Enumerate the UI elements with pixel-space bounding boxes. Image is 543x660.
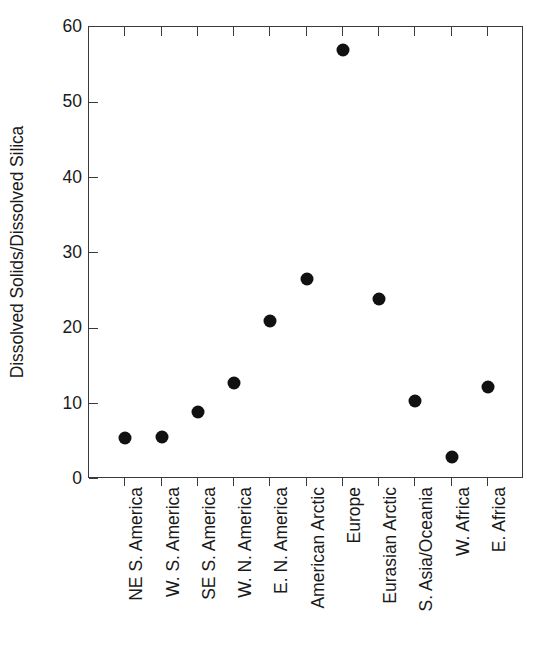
y-axis-tick <box>89 177 98 178</box>
x-axis-tick-label-container: Europe <box>330 487 354 660</box>
y-axis-tick <box>89 403 98 404</box>
x-axis-tick <box>342 477 343 486</box>
x-axis-tick-top <box>342 27 343 36</box>
data-point <box>409 395 422 408</box>
x-axis-tick-top <box>451 27 452 36</box>
x-axis-tick-label: E. N. America <box>269 487 293 594</box>
y-axis-title: Dissolved Solids/Dissolved Silica <box>7 126 28 379</box>
y-axis-tick <box>89 102 98 103</box>
x-axis-tick <box>414 477 415 486</box>
data-point <box>191 405 204 418</box>
x-axis-tick-labels: NE S. AmericaW. S. AmericaSE S. AmericaW… <box>88 487 523 660</box>
y-axis-tick-label: 50 <box>36 91 82 112</box>
data-point <box>481 381 494 394</box>
x-axis-tick-label-container: W. N. America <box>221 487 245 660</box>
y-axis-tick <box>89 252 98 253</box>
data-point <box>336 43 349 56</box>
data-point <box>373 292 386 305</box>
y-axis-tick <box>89 478 98 479</box>
x-axis-tick-top <box>414 27 415 36</box>
x-axis-tick-top <box>233 27 234 36</box>
x-axis-tick <box>306 477 307 486</box>
x-axis-tick-label: Eurasian Arctic <box>378 487 402 604</box>
plot-area <box>88 26 523 478</box>
x-axis-tick-label-container: SE S. America <box>185 487 209 660</box>
x-axis-tick-label: S. Asia/Oceania <box>414 487 438 612</box>
y-axis-tick-label: 10 <box>36 392 82 413</box>
x-axis-tick-top <box>306 27 307 36</box>
x-axis-tick <box>197 477 198 486</box>
x-axis-tick <box>487 477 488 486</box>
x-axis-tick-top <box>269 27 270 36</box>
data-point <box>155 430 168 443</box>
x-axis-tick-top <box>197 27 198 36</box>
x-axis-tick-top <box>124 27 125 36</box>
data-point <box>300 273 313 286</box>
x-axis-tick-top <box>378 27 379 36</box>
y-axis-tick-label: 40 <box>36 166 82 187</box>
x-axis-tick <box>161 477 162 486</box>
y-axis-tick-label: 20 <box>36 317 82 338</box>
x-axis-tick <box>233 477 234 486</box>
data-point <box>445 451 458 464</box>
x-axis-tick-label: NE S. America <box>124 487 148 601</box>
x-axis-tick <box>269 477 270 486</box>
x-axis-tick-label: E. Africa <box>487 487 511 552</box>
x-axis-tick-label-container: American Arctic <box>294 487 318 660</box>
x-axis-tick-label-container: W. Africa <box>439 487 463 660</box>
y-axis-tick-label: 0 <box>36 468 82 489</box>
y-axis-tick-label: 30 <box>36 242 82 263</box>
x-axis-tick-label-container: S. Asia/Oceania <box>402 487 426 660</box>
x-axis-tick-label: W. Africa <box>451 487 475 556</box>
x-axis-tick <box>124 477 125 486</box>
y-axis-title-container: Dissolved Solids/Dissolved Silica <box>0 26 34 478</box>
x-axis-tick-top <box>487 27 488 36</box>
x-axis-tick-label: Europe <box>342 487 366 543</box>
x-axis-tick-top <box>161 27 162 36</box>
x-axis-tick-label-container: E. N. America <box>257 487 281 660</box>
y-axis-tick-label: 60 <box>36 16 82 37</box>
data-point <box>264 314 277 327</box>
x-axis-tick-label: SE S. America <box>197 487 221 600</box>
x-axis-tick-label-container: NE S. America <box>112 487 136 660</box>
x-axis-tick-label-container: E. Africa <box>475 487 499 660</box>
scatter-chart-figure: Dissolved Solids/Dissolved Silica 010203… <box>0 0 543 660</box>
x-axis-tick-label: American Arctic <box>306 487 330 609</box>
x-axis-tick <box>378 477 379 486</box>
y-axis-tick <box>89 328 98 329</box>
data-point <box>228 376 241 389</box>
x-axis-tick-label-container: Eurasian Arctic <box>366 487 390 660</box>
x-axis-tick <box>451 477 452 486</box>
y-axis-tick-labels: 0102030405060 <box>36 0 82 660</box>
x-axis-tick-label: W. S. America <box>161 487 185 597</box>
y-axis-tick <box>89 26 98 27</box>
x-axis-tick-label: W. N. America <box>233 487 257 598</box>
data-point <box>119 432 132 445</box>
x-axis-tick-label-container: W. S. America <box>149 487 173 660</box>
